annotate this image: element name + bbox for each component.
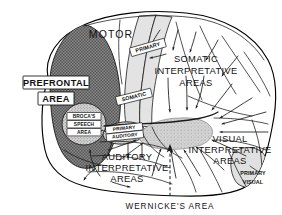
label-somatic-interpretative-line2: INTERPRETATIVE [154, 65, 237, 76]
label-auditory-interpretative-line1: AUDITORY [102, 151, 153, 162]
label-brocas-line2: SPEECH [74, 122, 95, 127]
label-primary-visual-line2: VISUAL [243, 179, 264, 185]
label-somatic-interpretative-group: SOMATIC INTERPRETATIVE AREAS [154, 53, 237, 88]
label-brocas-line1: BROCA'S [73, 114, 96, 119]
caption-wernickes-area: WERNICKE'S AREA [126, 202, 215, 211]
label-auditory-interpretative-line2: INTERPRETATIVE [85, 162, 168, 173]
label-somatic-interpretative-line1: SOMATIC [174, 53, 218, 64]
label-visual-interpretative-line3: AREAS [213, 155, 246, 166]
label-brocas-group: BROCA'S SPEECH AREA [67, 113, 101, 136]
label-brocas-line3: AREA [77, 130, 91, 135]
label-visual-interpretative-line2: INTERPRETATIVE [188, 144, 271, 155]
brain-diagram-figure: MOTOR PREFRONTAL AREA PRIMARY SOMATIC BR… [0, 0, 282, 215]
label-visual-interpretative-line1: VISUAL [212, 133, 247, 144]
label-somatic-interpretative-line3: AREAS [179, 77, 212, 88]
label-prefrontal-line1: PREFRONTAL [23, 78, 89, 88]
label-auditory-interpretative-line3: AREAS [110, 173, 143, 184]
label-prefrontal-line2: AREA [42, 94, 70, 104]
label-motor: MOTOR [89, 28, 133, 40]
label-primary-visual-line1: PRIMARY [240, 170, 266, 176]
brain-diagram-svg: MOTOR PREFRONTAL AREA PRIMARY SOMATIC BR… [0, 0, 282, 215]
